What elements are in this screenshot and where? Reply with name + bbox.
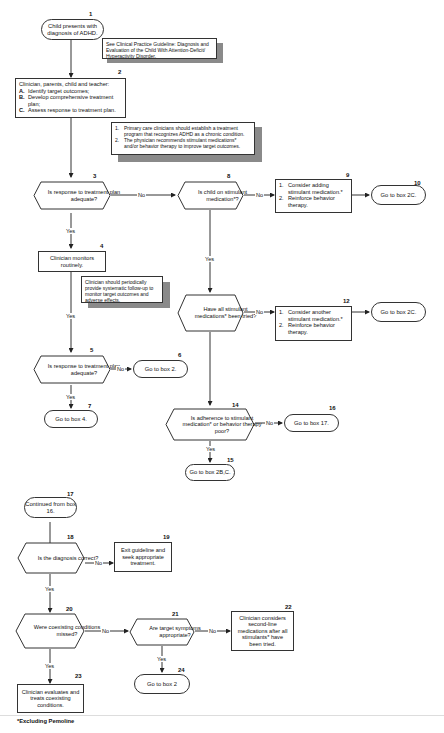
node-2-list: A.Identify target outcomes; B.Develop co…	[19, 88, 122, 114]
node-7-goto-box-4[interactable]: Go to box 4.	[44, 410, 98, 428]
node-22-number: 22	[285, 604, 292, 610]
item-key: 1.	[279, 182, 288, 195]
node-6-goto-box-2[interactable]: Go to box 2.	[133, 360, 188, 378]
node-1-text: Child presents with diagnosis of ADHD.	[42, 23, 103, 37]
edge-3-no-label: No	[137, 192, 146, 198]
edge-14-yes-label: Yes	[205, 446, 216, 452]
node-2-note-item: 1.Primary care clinicians should establi…	[115, 125, 251, 137]
edge-14-no-label: No	[265, 420, 274, 426]
node-17-number: 17	[67, 491, 74, 497]
node-14-decision: Is adherence to stimulant medication* or…	[165, 408, 255, 441]
node-1-note: See Clinical Practice Guideline: Diagnos…	[102, 38, 217, 59]
node-4-box: Clinician monitors routinely.	[38, 251, 106, 272]
node-12-number: 12	[343, 298, 350, 304]
item-text: Assess response to treatment plan.	[28, 107, 116, 114]
node-21-decision: Are target symptoms appropriate?	[129, 618, 195, 646]
node-11-decision: Have all stimulant medications* been tri…	[177, 294, 244, 332]
node-18-text: Is the diagnosis correct?	[17, 542, 119, 574]
item-key: 2.	[279, 322, 288, 335]
edge-21-yes-label: Yes	[156, 656, 167, 662]
node-19-number: 19	[163, 534, 170, 540]
node-4-number: 4	[100, 243, 103, 249]
node-3-number: 3	[93, 173, 96, 179]
node-2-note: 1.Primary care clinicians should establi…	[111, 122, 255, 155]
node-12-list: 1.Consider another stimulant medication.…	[279, 309, 348, 335]
edge-20-yes-label: Yes	[44, 663, 55, 669]
node-4-text: Clinician monitors routinely.	[39, 255, 105, 268]
node-9-item: 2.Reinforce behavior therapy.	[279, 195, 348, 208]
item-text: Reinforce behavior therapy.	[288, 195, 348, 208]
item-text: Develop comprehensive treatment plan;	[28, 94, 122, 107]
node-16-text: Go to box 17.	[294, 420, 329, 427]
node-7-number: 7	[88, 403, 91, 409]
node-16-number: 16	[329, 405, 336, 411]
node-2-title: Clinician, parents, child and teacher:	[19, 81, 122, 88]
node-5-number: 5	[90, 347, 93, 353]
item-key: 2.	[279, 195, 288, 208]
node-21-number: 21	[172, 611, 179, 617]
node-23-number: 23	[75, 673, 82, 679]
node-20-number: 20	[66, 606, 73, 612]
item-text: Reinforce behavior therapy.	[288, 322, 348, 335]
node-8-decision: Is child on stimulant medication*?	[177, 181, 244, 210]
node-8-number: 8	[227, 173, 230, 179]
node-3-text: Is response to treatment plan adequate?	[33, 181, 135, 210]
edge-5-yes-label: Yes	[65, 394, 76, 400]
node-13-text: Go to box 2C.	[381, 309, 417, 316]
node-10-goto-box-2c[interactable]: Go to box 2C.	[371, 185, 426, 205]
node-6-text: Go to box 2.	[145, 366, 177, 373]
node-9-box: 1.Consider adding stimulant medication.*…	[275, 179, 352, 213]
item-key: B.	[19, 94, 28, 107]
node-17-continued: Continued from box 16.	[24, 497, 77, 518]
item-key: 1.	[279, 309, 288, 322]
node-1-number: 1	[89, 11, 92, 17]
node-23-text: Clinician evaluates and treats coexistin…	[18, 689, 83, 709]
item-key: C.	[19, 107, 28, 114]
node-9-item: 1.Consider adding stimulant medication.*	[279, 182, 348, 195]
node-12-item: 2.Reinforce behavior therapy.	[279, 322, 348, 335]
edge-3-yes-label: Yes	[65, 228, 76, 234]
footnote: *Excluding Pemoline	[17, 718, 74, 724]
node-22-text: Clinician considers second-line medicati…	[232, 615, 293, 648]
node-15-number: 15	[227, 457, 234, 463]
edge-18-no-label: No	[94, 560, 103, 566]
node-17-text: Continued from box 16.	[25, 501, 76, 515]
footer-divider	[0, 715, 444, 716]
node-14-text: Is adherence to stimulant medication* or…	[165, 408, 279, 441]
node-16-goto-box-17[interactable]: Go to box 17.	[284, 414, 339, 432]
node-2-item: A.Identify target outcomes;	[19, 88, 122, 95]
edge-21-no-label: No	[208, 628, 217, 634]
item-text: Consider another stimulant medication.*	[288, 309, 348, 322]
node-2-box: Clinician, parents, child and teacher: A…	[15, 78, 126, 118]
node-2-note-list: 1.Primary care clinicians should establi…	[115, 125, 251, 149]
node-24-text: Go to box 2	[147, 681, 177, 688]
node-15-goto-box-2bc[interactable]: Go to box 2B,C.	[185, 464, 235, 481]
node-12-item: 1.Consider another stimulant medication.…	[279, 309, 348, 322]
node-2-note-item: 2.The physician recommends stimulant med…	[115, 137, 251, 149]
edge-5-no-label: No	[116, 366, 125, 372]
node-10-text: Go to box 2C.	[381, 192, 417, 199]
node-3-decision: Is response to treatment plan adequate?	[33, 181, 111, 210]
edge-4-yes-label: Yes	[65, 313, 76, 319]
node-4-note-text: Clinician should periodically provide sy…	[85, 279, 153, 303]
item-key: A.	[19, 88, 28, 95]
edge-11-no-label: No	[255, 309, 264, 315]
node-15-text: Go to box 2B,C.	[189, 469, 230, 476]
item-key: 1.	[115, 125, 124, 137]
node-23-box: Clinician evaluates and treats coexistin…	[17, 684, 84, 713]
item-text: Identify target outcomes;	[28, 88, 89, 95]
node-7-text: Go to box 4.	[55, 416, 87, 423]
node-2-item: B.Develop comprehensive treatment plan;	[19, 94, 122, 107]
node-18-decision: Is the diagnosis correct?	[17, 542, 85, 574]
node-24-goto-box-2[interactable]: Go to box 2	[134, 674, 190, 694]
node-2-number: 2	[118, 69, 121, 75]
item-key: 2.	[115, 137, 124, 149]
node-19-box: Exit guideline and seek appropriate trea…	[114, 542, 172, 572]
node-6-number: 6	[178, 352, 181, 358]
node-20-decision: Were coexisting conditions missed?	[15, 613, 85, 649]
item-text: Primary care clinicians should establish…	[124, 125, 251, 137]
edge-8-no-label: No	[255, 192, 264, 198]
node-13-goto-box-2c[interactable]: Go to box 2C.	[371, 302, 426, 322]
node-1-start: Child presents with diagnosis of ADHD.	[41, 19, 104, 40]
node-4-note: Clinician should periodically provide sy…	[81, 276, 163, 303]
